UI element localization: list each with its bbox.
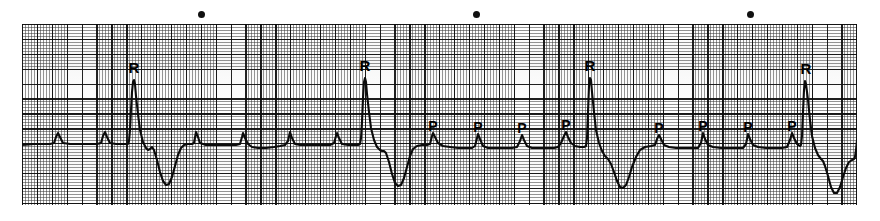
p-wave-label-p1: P [428, 119, 437, 133]
p-wave-label-p4: P [561, 118, 570, 132]
ecg-rhythm-strip-figure: RRRRPPPPPPPP [0, 0, 880, 221]
ecg-waveform-trace [22, 24, 857, 205]
r-wave-label-r2: R [360, 58, 371, 73]
timing-dot-1 [198, 11, 205, 18]
ecg-trace-path [22, 78, 857, 193]
r-wave-label-r4: R [801, 61, 812, 76]
timing-dot-3 [747, 11, 754, 18]
p-wave-label-p5: P [654, 121, 663, 135]
p-wave-label-p3: P [517, 121, 526, 135]
p-wave-label-p7: P [743, 120, 752, 134]
r-wave-label-r1: R [129, 60, 140, 75]
p-wave-label-p6: P [698, 119, 707, 133]
p-wave-label-p8: P [787, 119, 796, 133]
p-wave-label-p2: P [473, 120, 482, 134]
ecg-graph-paper [22, 24, 857, 205]
r-wave-label-r3: R [585, 58, 596, 73]
timing-dot-2 [473, 11, 480, 18]
